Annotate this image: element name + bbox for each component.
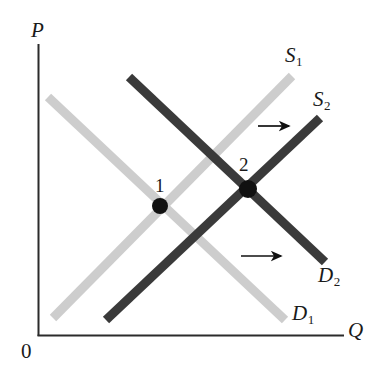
- curve-label-supply-1-text: S: [285, 43, 296, 67]
- curve-label-demand-1: D1: [292, 303, 314, 326]
- equilibrium-point-1: [152, 198, 168, 214]
- curve-label-demand-2-text: D: [318, 263, 333, 287]
- equilibrium-point-1-label: 1: [155, 176, 165, 195]
- equilibrium-point-2: [239, 180, 257, 198]
- curve-label-demand-2: D2: [318, 265, 340, 288]
- supply-demand-figure: P Q 0 S1 S2 D2 D1 1 2: [0, 0, 385, 370]
- diagram-canvas: [0, 0, 385, 370]
- curve-label-supply-1: S1: [285, 45, 303, 68]
- curve-label-supply-2-text: S: [313, 87, 324, 111]
- axis-label-price: P: [31, 20, 44, 41]
- curve-label-demand-2-subscript: 2: [334, 274, 341, 289]
- equilibrium-point-2-label: 2: [239, 155, 249, 174]
- axis-label-quantity: Q: [348, 320, 363, 341]
- curve-demand-2: [129, 77, 325, 262]
- curve-label-supply-2-subscript: 2: [324, 98, 331, 113]
- curve-label-supply-2: S2: [313, 89, 331, 112]
- curve-label-supply-1-subscript: 1: [296, 54, 303, 69]
- origin-label: 0: [21, 341, 32, 362]
- curve-supply-2: [106, 118, 320, 320]
- curve-label-demand-1-text: D: [292, 301, 307, 325]
- curve-label-demand-1-subscript: 1: [308, 312, 315, 327]
